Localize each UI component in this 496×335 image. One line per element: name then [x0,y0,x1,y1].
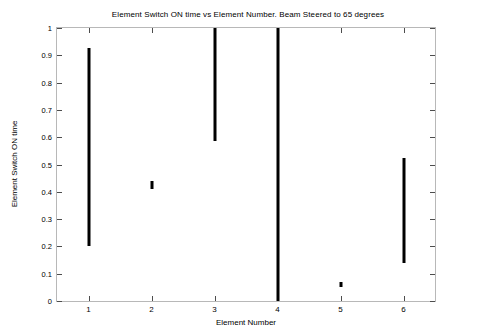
y-axis-tick-label: 0.8 [42,78,52,87]
y-axis-tick [430,55,435,56]
x-axis-tick [404,296,405,301]
y-axis-tick [430,301,435,302]
x-axis-tick-label: 3 [212,305,216,314]
x-axis-tick-label: 4 [275,305,279,314]
y-axis-tick [57,192,62,193]
y-axis-tick [430,246,435,247]
x-axis-tick-label: 6 [401,305,405,314]
bar-element-6 [402,158,405,263]
y-axis-tick [57,137,62,138]
y-axis-tick [57,55,62,56]
y-axis-tick-label: 0.4 [42,187,52,196]
x-axis-tick [152,296,153,301]
x-axis-tick [215,296,216,301]
y-axis-tick [57,110,62,111]
x-axis-tick [89,28,90,33]
x-axis-title: Element Number [56,318,436,327]
bar-element-3 [213,28,216,141]
y-axis-tick [430,28,435,29]
x-axis-tick-label: 1 [86,305,90,314]
bar-element-4 [276,28,279,301]
y-axis-tick [57,165,62,166]
y-axis-title: Element Switch ON time [10,121,19,208]
x-axis-tick-label: 2 [149,305,153,314]
y-axis-tick-label: 0.6 [42,133,52,142]
chart-title: Element Switch ON time vs Element Number… [0,10,496,19]
chart-figure: Element Switch ON time vs Element Number… [0,0,496,335]
y-axis-tick-label: 0 [48,297,52,306]
y-axis-tick [57,219,62,220]
y-axis-tick [430,137,435,138]
y-axis-tick [430,110,435,111]
bar-element-2 [150,181,153,189]
y-axis-tick [57,246,62,247]
x-axis-tick [89,296,90,301]
y-axis-tick [430,274,435,275]
y-axis-tick [57,83,62,84]
plot-area: 00.10.20.30.40.50.60.70.80.91123456 [56,27,436,302]
y-axis-tick-label: 0.9 [42,51,52,60]
x-axis-tick [341,28,342,33]
y-axis-tick [57,301,62,302]
y-axis-tick-label: 0.1 [42,269,52,278]
y-axis-tick-label: 0.7 [42,105,52,114]
bar-element-1 [87,48,90,246]
x-axis-tick [152,28,153,33]
x-axis-tick [404,28,405,33]
y-axis-tick [430,83,435,84]
y-axis-tick-label: 0.5 [42,160,52,169]
y-axis-tick [430,165,435,166]
y-axis-tick [57,274,62,275]
bar-element-5 [339,282,342,287]
y-axis-tick [57,28,62,29]
y-axis-tick-label: 0.2 [42,242,52,251]
plot-inner: 00.10.20.30.40.50.60.70.80.91123456 [57,28,435,301]
y-axis-tick [430,192,435,193]
y-axis-tick [430,219,435,220]
x-axis-tick [341,296,342,301]
x-axis-tick-label: 5 [338,305,342,314]
y-axis-tick-label: 1 [48,24,52,33]
y-axis-tick-label: 0.3 [42,215,52,224]
